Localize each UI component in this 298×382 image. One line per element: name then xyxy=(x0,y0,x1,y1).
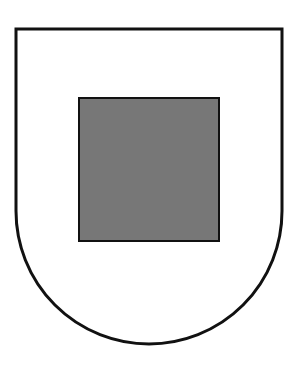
shield-diagram xyxy=(0,0,298,382)
inner-square xyxy=(79,98,219,241)
